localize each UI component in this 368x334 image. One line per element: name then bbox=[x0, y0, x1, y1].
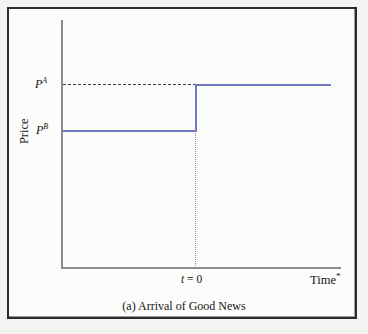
y-label-price-a: PA bbox=[35, 77, 47, 90]
event-line-t0-dotted bbox=[195, 131, 196, 268]
x-tick-label-t0-value: = 0 bbox=[184, 273, 202, 285]
x-axis-title: Time* bbox=[310, 272, 340, 287]
figure-caption: (a) Arrival of Good News bbox=[0, 299, 368, 314]
y-label-price-b-superscript: B bbox=[43, 122, 48, 131]
chart-plot-area: PA PB Price t = 0 Time* bbox=[0, 0, 368, 334]
x-tick-label-t0: t = 0 bbox=[181, 274, 202, 286]
series-segment-post-news bbox=[195, 84, 331, 86]
figure-panel: PA PB Price t = 0 Time* (a) Arrival of G… bbox=[0, 0, 368, 334]
x-axis bbox=[61, 267, 341, 269]
y-label-price-a-superscript: A bbox=[42, 76, 47, 85]
reference-line-pa-dashed bbox=[63, 84, 196, 85]
y-axis bbox=[61, 20, 63, 269]
series-segment-pre-news bbox=[62, 130, 196, 132]
x-axis-title-footnote-marker: * bbox=[336, 271, 341, 281]
y-label-price-b: PB bbox=[36, 123, 48, 136]
series-segment-jump bbox=[195, 84, 197, 132]
x-axis-title-text: Time bbox=[310, 273, 336, 287]
y-axis-title: Price bbox=[18, 101, 31, 161]
